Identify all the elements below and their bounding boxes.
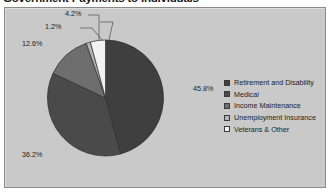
legend-item[interactable]: Income Maintenance — [222, 100, 326, 112]
slice-percentage-label: 36.2% — [22, 150, 42, 159]
page-title: Government Payments to Individuals — [3, 0, 199, 5]
slice-percentage-label: 12.6% — [22, 39, 42, 48]
legend-item[interactable]: Veterans & Other — [222, 123, 326, 135]
legend: Retirement and DisabilityMedicalIncome M… — [222, 75, 326, 137]
pie-chart-figure: Government Payments to Individuals 45.8%… — [0, 0, 332, 195]
legend-swatch-icon — [224, 91, 230, 97]
legend-item-label: Retirement and Disability — [234, 79, 314, 86]
legend-item[interactable]: Medical — [222, 89, 326, 101]
legend-swatch-icon — [224, 103, 230, 109]
slice-percentage-label: 4.2% — [65, 9, 81, 18]
legend-item[interactable]: Unemployment Insurance — [222, 112, 326, 124]
legend-item[interactable]: Retirement and Disability — [222, 77, 326, 89]
legend-item-label: Medical — [234, 91, 259, 98]
legend-swatch-icon — [224, 80, 230, 86]
legend-swatch-icon — [224, 115, 230, 121]
legend-item-label: Unemployment Insurance — [234, 114, 316, 121]
legend-item-label: Income Maintenance — [234, 102, 301, 109]
slice-percentage-label: 45.8% — [193, 84, 213, 93]
legend-item-label: Veterans & Other — [234, 126, 289, 133]
slice-percentage-label: 1.2% — [45, 22, 61, 31]
legend-swatch-icon — [224, 126, 230, 132]
